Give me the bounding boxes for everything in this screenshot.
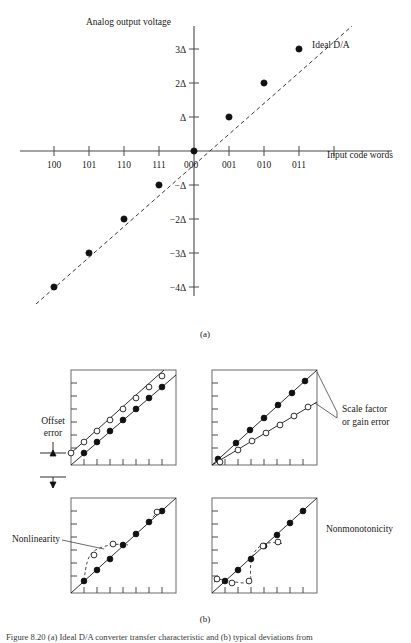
x-tick-label: 110 — [117, 160, 131, 170]
offset-error-x-ticks — [84, 459, 162, 465]
x-axis-title: Input code words — [327, 150, 393, 160]
part-a-label: (a) — [200, 329, 210, 339]
y-tick-label: −2Δ — [170, 215, 186, 225]
nonlinearity-y-ticks — [71, 511, 77, 576]
gain-error-leader — [315, 372, 337, 418]
nonlinearity-label: Nonlinearity — [12, 534, 60, 544]
y-tick-label: −Δ — [175, 181, 186, 191]
chart-gain-error: Scale factor or gain error — [212, 370, 390, 465]
nonmonotonicity-label: Nonmonotonicity — [326, 524, 393, 534]
y-tick-label: Δ — [180, 113, 186, 123]
chart-offset-error: Offset error — [40, 370, 176, 488]
ideal-dac-annotation: Ideal D/A — [312, 40, 350, 50]
gain-error-y-ticks — [212, 383, 218, 448]
figure-caption: Figure 8.20 (a) Ideal D/A converter tran… — [0, 632, 411, 643]
nonlinearity-leader — [62, 540, 104, 549]
nonmonotonicity-deviation-curve-high — [250, 543, 284, 579]
x-axis-tick-labels: 100 101 110 111 000 001 010 011 — [47, 160, 306, 170]
chart-ideal-dac: Analog output voltage Input code words I… — [0, 0, 411, 340]
y-tick-label: 2Δ — [175, 79, 186, 89]
nonmonotonicity-x-ticks — [225, 587, 303, 593]
offset-error-label-line1: Offset — [41, 416, 65, 426]
gain-error-x-ticks — [225, 459, 303, 465]
chart-group-dac-errors: Offset error — [0, 350, 411, 640]
x-tick-label: 001 — [222, 160, 237, 170]
nonlinearity-actual-points — [91, 509, 160, 558]
gain-error-actual-points — [217, 404, 311, 465]
x-tick-label: 011 — [292, 160, 306, 170]
x-tick-label: 010 — [257, 160, 272, 170]
offset-error-dimension — [40, 442, 66, 488]
x-tick-label: 100 — [47, 160, 62, 170]
nonlinearity-x-ticks — [84, 587, 162, 593]
offset-error-y-ticks — [71, 383, 77, 448]
y-tick-label: −4Δ — [170, 283, 186, 293]
x-tick-label: 101 — [82, 160, 97, 170]
part-b-label: (b) — [200, 614, 211, 624]
offset-error-label-line2: error — [44, 428, 63, 438]
chart-nonmonotonicity: Nonmonotonicity — [212, 498, 393, 593]
gain-error-label-line2: or gain error — [342, 417, 390, 427]
gain-error-label-line1: Scale factor — [342, 404, 388, 414]
chart-nonlinearity: Nonlinearity — [12, 498, 176, 593]
y-tick-label: 3Δ — [175, 45, 186, 55]
y-tick-label: −3Δ — [170, 249, 186, 259]
nonmonotonicity-y-ticks — [212, 511, 218, 576]
x-tick-label: 000 — [184, 160, 199, 170]
y-axis-title: Analog output voltage — [86, 17, 171, 27]
offset-error-actual-points — [68, 373, 165, 456]
x-tick-label: 111 — [152, 160, 166, 170]
